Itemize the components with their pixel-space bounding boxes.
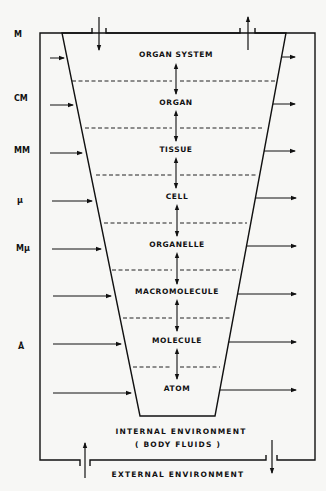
body-fluids-label: ( BODY FLUIDS ) xyxy=(135,440,221,449)
unit-angstrom: Å xyxy=(18,341,25,351)
level-label-macromolecule: MACROMOLECULE xyxy=(135,287,219,296)
output-arrows-right xyxy=(220,57,296,390)
level-label-molecule: MOLECULE xyxy=(152,336,202,345)
unit-micron: µ xyxy=(17,196,23,205)
unit-meter: M xyxy=(14,30,22,39)
level-separators xyxy=(72,81,277,367)
level-label-organelle: ORGANELLE xyxy=(149,240,205,249)
internal-environment-label: INTERNAL ENVIRONMENT xyxy=(116,427,247,436)
input-arrows-left xyxy=(50,58,131,393)
unit-millimeter: MM xyxy=(14,146,30,155)
external-environment-label: EXTERNAL ENVIRONMENT xyxy=(112,470,245,479)
unit-centimeter: CM xyxy=(14,94,28,103)
organization-levels-diagram: ORGAN SYSTEM ORGAN TISSUE CELL ORGANELLE… xyxy=(0,0,326,491)
scale-units: M CM MM µ Mµ Å xyxy=(14,30,30,351)
organism-trapezoid xyxy=(62,33,286,416)
diagram-container: ORGAN SYSTEM ORGAN TISSUE CELL ORGANELLE… xyxy=(0,0,326,491)
unit-millimicron: Mµ xyxy=(16,244,30,253)
level-label-atom: ATOM xyxy=(164,384,191,393)
level-label-cell: CELL xyxy=(166,192,189,201)
level-label-tissue: TISSUE xyxy=(159,145,192,154)
level-interaction-arrows xyxy=(176,68,177,379)
level-label-organ-system: ORGAN SYSTEM xyxy=(139,50,213,59)
level-label-organ: ORGAN xyxy=(159,98,192,107)
